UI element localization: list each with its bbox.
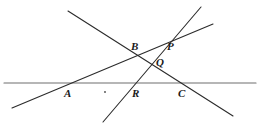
point-label-b: B xyxy=(131,41,138,52)
point-label-r: R xyxy=(132,88,139,99)
point-label-c: C xyxy=(178,88,185,99)
geometry-figure: ABPQRC xyxy=(0,0,262,131)
point-label-p: P xyxy=(167,41,174,52)
stray-dot xyxy=(104,91,106,93)
line-through-B-Q-C xyxy=(68,11,233,116)
geometry-canvas xyxy=(0,0,262,131)
point-label-a: A xyxy=(64,88,71,99)
line-through-R-Q-P xyxy=(103,7,201,122)
point-label-q: Q xyxy=(156,57,164,68)
